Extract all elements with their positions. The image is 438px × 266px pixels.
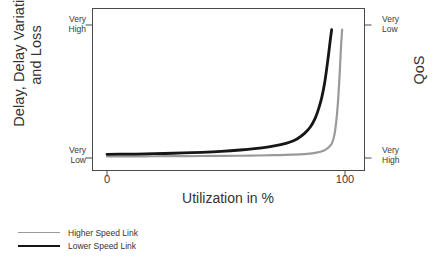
legend-swatch-lower-speed-link: [18, 245, 60, 247]
series-line-higher-speed-link: [107, 30, 342, 157]
legend-swatch-higher-speed-link: [18, 232, 60, 233]
series-line-lower-speed-link: [107, 30, 332, 155]
chart-legend: Higher Speed Link Lower Speed Link: [18, 226, 138, 252]
legend-item-lower-speed-link: Lower Speed Link: [18, 239, 138, 252]
data-curves: [107, 30, 342, 157]
legend-item-higher-speed-link: Higher Speed Link: [18, 226, 138, 239]
legend-label-lower-speed-link: Lower Speed Link: [68, 241, 136, 251]
chart-figure: Delay, Delay Variation and Loss QoS Util…: [0, 0, 438, 266]
legend-label-higher-speed-link: Higher Speed Link: [68, 228, 138, 238]
